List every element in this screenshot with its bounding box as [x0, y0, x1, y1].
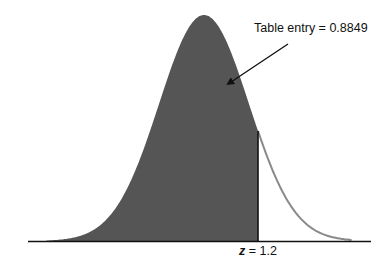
z-equals-value: = 1.2: [245, 244, 277, 258]
shaded-area: [47, 15, 259, 241]
table-entry-annotation: Table entry = 0.8849: [254, 21, 368, 35]
z-value-label: z = 1.2: [239, 244, 277, 258]
unshaded-curve-tail: [258, 131, 352, 240]
annotation-arrow: [228, 44, 288, 84]
normal-curve-chart: [0, 0, 392, 271]
